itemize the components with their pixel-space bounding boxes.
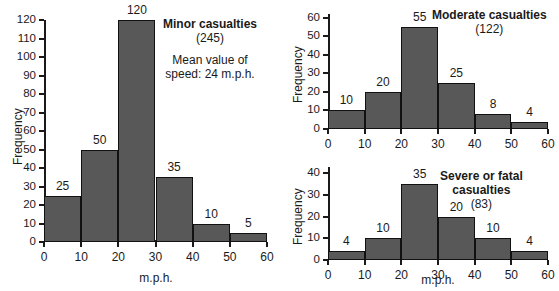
histogram-bar [365, 92, 402, 129]
x-axis-tick-label: 10 [358, 269, 371, 281]
histogram-bar [328, 110, 365, 129]
annotation-subtitle-severe: (83) [440, 197, 523, 211]
y-axis-tick-label: 60 [307, 12, 320, 24]
y-axis-tick [39, 112, 44, 114]
y-axis-tick [39, 38, 44, 40]
bar-value-label: 55 [413, 11, 426, 23]
histogram-bar [118, 20, 155, 242]
y-axis-tick-label: 60 [23, 125, 36, 137]
y-axis-tick [39, 19, 44, 21]
x-axis-tick-label: 50 [505, 269, 518, 281]
y-axis-tick [39, 130, 44, 132]
x-axis-tick-label: 0 [41, 251, 48, 263]
y-axis-tick [39, 204, 44, 206]
y-axis-tick [39, 75, 44, 77]
y-axis-tick [39, 93, 44, 95]
x-axis-tick-label: 0 [325, 269, 332, 281]
y-axis-tick-label: 50 [23, 144, 36, 156]
y-axis-title-minor: Frequency [12, 108, 24, 165]
y-axis-title-moderate: Frequency [292, 46, 304, 103]
x-axis-tick-label: 0 [325, 138, 332, 150]
y-axis-tick-label: 30 [307, 189, 320, 201]
y-axis-tick-label: 0 [314, 254, 320, 266]
histogram-bar [511, 251, 548, 260]
y-axis-tick-label: 120 [17, 14, 36, 26]
bar-value-label: 4 [526, 235, 533, 247]
annotation-moderate: Moderate casualties (122) [432, 8, 547, 36]
y-axis-tick-label: 40 [307, 168, 320, 180]
histogram-bar [365, 238, 402, 260]
bar-value-label: 8 [490, 98, 497, 110]
y-axis-tick [323, 194, 328, 196]
annotation-note-line2-minor: speed: 24 m.p.h. [163, 67, 257, 81]
bar-value-label: 25 [56, 180, 69, 192]
y-axis-tick [323, 109, 328, 111]
y-axis-tick [323, 54, 328, 56]
annotation-title-moderate: Moderate casualties [432, 8, 547, 22]
y-axis-tick [323, 216, 328, 218]
x-axis-tick-label: 60 [260, 251, 273, 263]
x-axis-tick [43, 242, 45, 247]
x-axis-tick [474, 129, 476, 134]
y-axis-tick-label: 40 [23, 162, 36, 174]
x-axis-tick [192, 242, 194, 247]
x-axis-tick [510, 260, 512, 265]
x-axis-tick [364, 260, 366, 265]
y-axis-tick [323, 172, 328, 174]
y-axis-tick [39, 56, 44, 58]
y-axis-tick-label: 20 [23, 199, 36, 211]
y-axis-tick-label: 70 [23, 107, 36, 119]
bar-value-label: 50 [93, 134, 106, 146]
bar-value-label: 10 [376, 222, 389, 234]
y-axis-tick-label: 0 [314, 123, 320, 135]
x-axis-tick [437, 129, 439, 134]
y-axis-tick [323, 91, 328, 93]
annotation-subtitle-moderate: (122) [432, 22, 547, 36]
x-axis-tick [266, 242, 268, 247]
x-axis-tick-label: 10 [74, 251, 87, 263]
x-axis-tick-label: 40 [186, 251, 199, 263]
x-axis-tick-label: 60 [541, 269, 554, 281]
x-axis-tick-label: 20 [112, 251, 125, 263]
histogram-bar [438, 83, 475, 129]
x-axis-tick-label: 30 [431, 138, 444, 150]
y-axis-tick-label: 40 [307, 49, 320, 61]
y-axis-tick [323, 35, 328, 37]
y-axis-tick-label: 0 [30, 236, 36, 248]
y-axis-tick [39, 223, 44, 225]
annotation-subtitle-minor: (245) [163, 31, 257, 45]
histogram-bar [401, 184, 438, 260]
histogram-bar [475, 238, 512, 260]
x-axis-tick-label: 50 [505, 138, 518, 150]
bar-value-label: 10 [340, 94, 353, 106]
y-axis-tick-label: 10 [23, 218, 36, 230]
histogram-bar [511, 122, 548, 129]
x-axis-tick [80, 242, 82, 247]
x-axis-tick [364, 129, 366, 134]
x-axis-tick-label: 20 [395, 269, 408, 281]
histogram-bar [193, 224, 230, 243]
y-axis-tick [39, 186, 44, 188]
histogram-bar [230, 233, 267, 242]
y-axis-tick-label: 10 [307, 233, 320, 245]
y-axis-tick-label: 20 [307, 86, 320, 98]
x-axis-tick-label: 30 [149, 251, 162, 263]
x-axis-tick [510, 129, 512, 134]
bar-value-label: 25 [450, 67, 463, 79]
bar-value-label: 35 [167, 161, 180, 173]
annotation-title-minor: Minor casualties [163, 17, 257, 31]
chart-minor-casualties: 2550120351050102030405060708090100110120… [0, 0, 280, 291]
chart-severe-casualties: 41035201040102030400102030405060 Frequen… [280, 150, 559, 291]
y-axis-tick-label: 10 [307, 105, 320, 117]
y-axis-tick-label: 80 [23, 88, 36, 100]
y-axis-tick-label: 50 [307, 31, 320, 43]
x-axis-tick [400, 260, 402, 265]
x-axis-tick-label: 40 [468, 269, 481, 281]
chart-moderate-casualties: 102055258401020304050600102030405060 Fre… [280, 0, 559, 150]
annotation-minor: Minor casualties (245) Mean value of spe… [163, 17, 257, 81]
annotation-title-line1-severe: Severe or fatal [440, 169, 523, 183]
annotation-note-line1-minor: Mean value of [163, 53, 257, 67]
histogram-bar [44, 196, 81, 242]
x-axis-title-minor: m.p.h. [139, 272, 172, 284]
bar-value-label: 120 [127, 4, 147, 16]
